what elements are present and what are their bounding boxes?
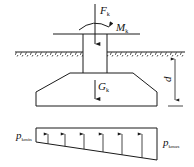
moment-arrow xyxy=(79,23,109,30)
axial-force-label: Fk xyxy=(99,4,110,17)
depth-label: d xyxy=(161,76,173,82)
footing xyxy=(36,73,157,106)
ground-left xyxy=(15,52,83,57)
foundation-diagram: Fk Mk Gk d pkmin pkmax xyxy=(0,0,194,167)
pressure-diagram xyxy=(36,128,157,160)
pressure-max-label: pkmax xyxy=(162,136,180,149)
ground-right xyxy=(107,52,185,57)
pressure-min-label: pkmin xyxy=(15,129,32,142)
self-weight-label: Gk xyxy=(98,80,109,93)
moment-label: Mk xyxy=(115,21,128,34)
